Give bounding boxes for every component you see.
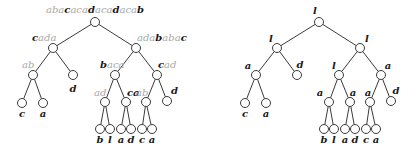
tree-node: [132, 44, 141, 53]
right-tree: llladlacaaaadbladca: [241, 5, 400, 145]
tree-node: [346, 98, 355, 107]
node-label: l: [365, 33, 369, 44]
tree-node: [351, 125, 360, 134]
tree-edge: [139, 52, 154, 72]
tree-node: [252, 71, 261, 80]
node-label: d: [171, 85, 178, 96]
left-tree: abacacadacadacabcadaadababacabdbacacadca…: [18, 4, 187, 145]
tree-node: [366, 98, 375, 107]
tree-node: [377, 71, 386, 80]
node-label: a: [373, 134, 379, 145]
tree-edge: [159, 79, 166, 97]
tree-node: [96, 125, 105, 134]
tree-edge: [371, 106, 375, 124]
tree-node: [111, 71, 120, 80]
tree-node: [341, 125, 350, 134]
node-label: b: [97, 134, 104, 145]
tree-edge: [99, 24, 132, 45]
tree-node: [372, 125, 381, 134]
tree-node: [293, 71, 302, 80]
node-label: a: [350, 87, 356, 98]
tree-node: [39, 99, 48, 108]
tree-edge: [127, 106, 130, 124]
tree-node: [273, 44, 282, 53]
tree-node: [101, 98, 110, 107]
tree-edge: [367, 106, 370, 124]
node-label: c: [242, 108, 248, 119]
tree-node: [29, 71, 38, 80]
tree-node: [148, 125, 157, 134]
node-label: l: [332, 60, 336, 71]
node-label: a: [118, 134, 124, 145]
tree-edge: [57, 24, 91, 45]
tree-node: [163, 97, 172, 106]
node-label: c: [19, 108, 25, 119]
node-label: c: [363, 134, 369, 145]
tree-edge: [148, 79, 156, 98]
tree-edge: [372, 79, 380, 98]
node-label: cad: [158, 59, 176, 70]
tree-edge: [117, 79, 125, 98]
tree-node: [362, 125, 371, 134]
tree-edge: [24, 79, 32, 99]
tree-edge: [363, 52, 378, 72]
node-label: baca: [100, 59, 125, 70]
node-label: b: [321, 134, 328, 145]
node-label: a: [317, 87, 323, 98]
tree-node: [138, 125, 147, 134]
tree-edge: [122, 106, 125, 124]
node-label: adababac: [137, 32, 187, 43]
tree-node: [241, 99, 250, 108]
node-label: cada: [32, 32, 56, 43]
tree-edge: [247, 79, 255, 99]
node-label: d: [297, 59, 304, 70]
tree-edge: [346, 106, 349, 124]
tree-edge: [147, 106, 151, 124]
tree-edge: [383, 79, 390, 97]
tree-edge: [56, 52, 71, 72]
node-label: abacacadacadacab: [46, 4, 144, 15]
node-label: a: [40, 108, 46, 119]
tree-edge: [351, 106, 354, 124]
tree-edge: [106, 106, 109, 124]
node-label: d: [70, 83, 77, 94]
tree-edge: [143, 106, 146, 124]
node-label: ad: [94, 87, 106, 98]
tree-edge: [35, 79, 42, 99]
tree-node: [122, 98, 131, 107]
node-label: d: [393, 85, 400, 96]
node-label: c: [139, 134, 145, 145]
node-label: a: [245, 60, 251, 71]
tree-edge: [101, 106, 104, 124]
node-label: l: [332, 134, 336, 145]
tree-edge: [259, 52, 274, 72]
tree-node: [142, 98, 151, 107]
node-label: ab: [22, 59, 34, 70]
node-label: d: [128, 134, 135, 145]
node-label: l: [313, 5, 317, 16]
tree-node: [49, 44, 58, 53]
node-label: a: [149, 134, 155, 145]
tree-edge: [258, 79, 265, 99]
node-label: ab: [136, 87, 148, 98]
tree-edge: [342, 52, 357, 72]
node-label: l: [108, 134, 112, 145]
tree-node: [320, 125, 329, 134]
tree-edge: [36, 52, 51, 72]
tree-node: [153, 71, 162, 80]
node-label: l: [269, 33, 273, 44]
tree-node: [325, 98, 334, 107]
tree-edge: [325, 106, 328, 124]
tree-edge: [331, 79, 338, 98]
tree-node: [106, 125, 115, 134]
tree-node: [315, 18, 324, 27]
tree-diagram: abacacadacadacabcadaadababacabdbacacadca…: [0, 0, 417, 154]
node-label: a: [385, 60, 391, 71]
tree-node: [69, 71, 78, 80]
node-label: a: [342, 134, 348, 145]
tree-node: [335, 71, 344, 80]
tree-edge: [280, 52, 295, 72]
tree-node: [18, 99, 27, 108]
tree-edge: [323, 24, 356, 45]
tree-node: [356, 44, 365, 53]
